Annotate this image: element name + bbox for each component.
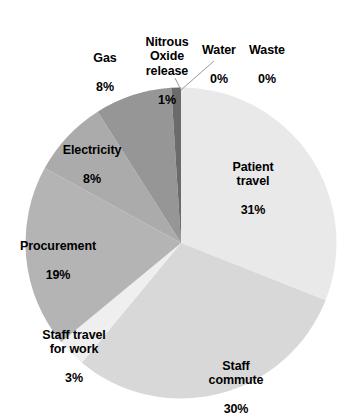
pie-chart-svg (0, 0, 355, 416)
leader-line-water (181, 61, 214, 90)
leader-lines (175, 61, 214, 90)
pie-slices (26, 88, 337, 399)
pie-chart: Gas 8% Nitrous Oxide release 1% Water 0%… (0, 0, 355, 416)
